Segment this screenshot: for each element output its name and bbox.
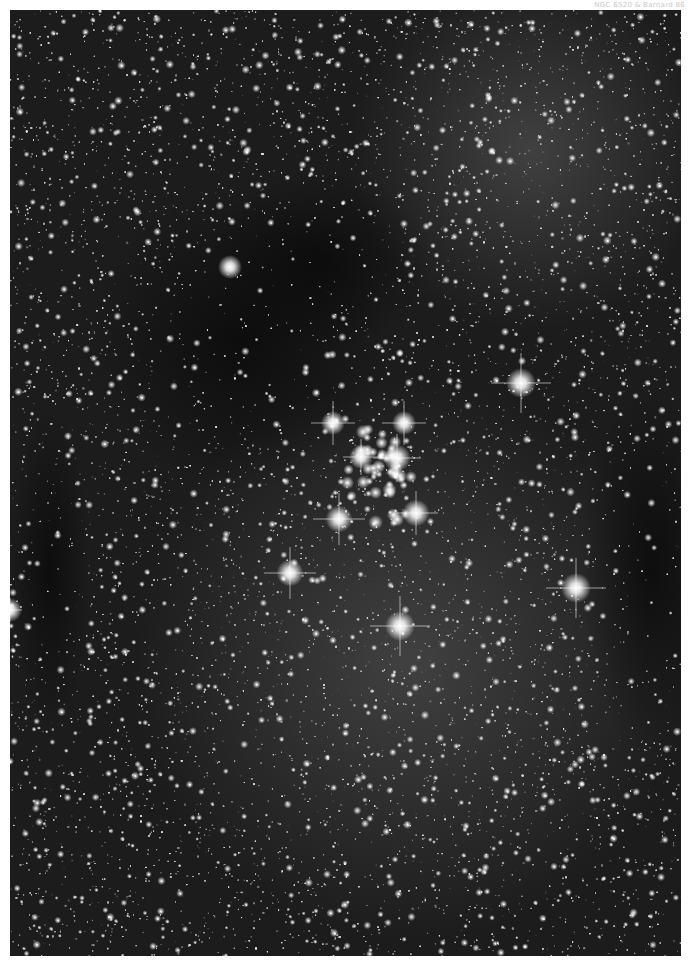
image-caption: NGC 6520 & Barnard 86 — [594, 0, 685, 10]
star-field-photo — [10, 10, 681, 956]
star-field-canvas — [10, 10, 681, 956]
